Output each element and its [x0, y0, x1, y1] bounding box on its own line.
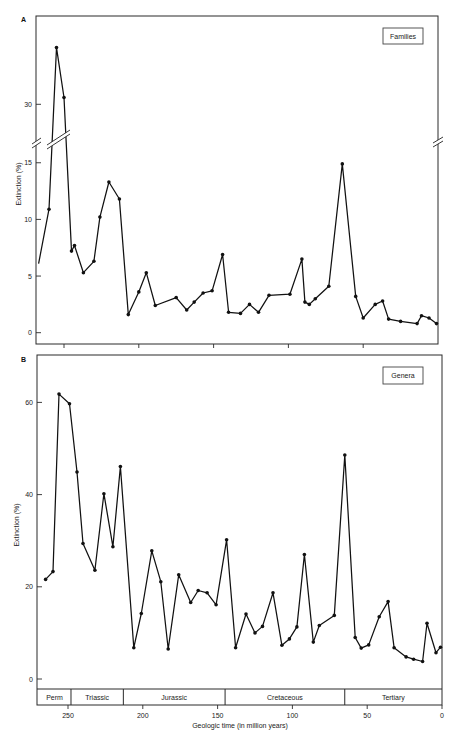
period-label-perm: Perm: [46, 694, 63, 701]
panel-b-data-point: [159, 580, 163, 584]
panel-b-data-point: [318, 624, 322, 628]
panel-a-data-point: [127, 313, 131, 317]
panel-b-data-point: [367, 643, 371, 647]
panel-a-data-point: [435, 322, 439, 326]
panel-b-data-point: [425, 621, 429, 625]
panel-b-data-point: [404, 655, 408, 659]
panel-b-data-point: [196, 589, 200, 593]
panel-a-legend-label: Families: [390, 33, 417, 40]
period-label-triassic: Triassic: [85, 694, 109, 701]
panel-a-data-point: [221, 253, 225, 257]
panel-a-data-point: [92, 260, 96, 264]
panel-a-data-point: [82, 271, 86, 275]
panel-b-y-tick-label: 20: [25, 583, 33, 590]
panel-b-y-tick-label: 40: [25, 491, 33, 498]
panel-b-x-tick-label: 150: [212, 712, 224, 719]
panel-a-y-tick-label: 0: [28, 329, 32, 336]
panel-b-y-tick-label: 60: [25, 399, 33, 406]
panel-b-data-point: [261, 625, 265, 629]
panel-a-data-point: [341, 162, 345, 166]
panel-a-data-point: [201, 291, 205, 295]
panel-a-data-point: [387, 317, 391, 321]
panel-b-data-point: [386, 600, 390, 604]
panel-b-data-point: [377, 615, 381, 619]
panel-a-data-point: [107, 180, 111, 184]
panel-b-data-point: [312, 640, 316, 644]
panel-b-data-point: [392, 646, 396, 650]
panel-a-data-point: [70, 249, 74, 253]
extinction-figure: A 05101530 Extinction (%) Families B: [0, 0, 458, 739]
panel-b-data-point: [303, 553, 307, 557]
panel-b-y-tick-label: 0: [29, 676, 33, 683]
panel-b-data-point: [102, 492, 106, 496]
panel-b-x-tick-label: 50: [363, 712, 371, 719]
panel-b-data-point: [225, 538, 229, 542]
panel-a-data-point: [327, 284, 331, 288]
x-axis-title: Geologic time (in million years): [192, 722, 288, 730]
panel-b-data-point: [44, 578, 48, 582]
panel-b-data-point: [343, 453, 347, 457]
panel-b-data-point: [57, 392, 61, 396]
panel-b-x-tick-label: 0: [440, 712, 444, 719]
panel-b-data-point: [81, 542, 85, 546]
panel-a-data-point: [415, 322, 419, 326]
panel-a-data-point: [381, 299, 385, 303]
panel-b-data-point: [280, 644, 284, 648]
panel-b-x-tick-label: 200: [137, 712, 149, 719]
panel-a-label: A: [21, 16, 26, 23]
panel-b-data-point: [132, 646, 136, 650]
panel-a-data-point: [288, 292, 292, 296]
panel-b-data-point: [177, 573, 181, 577]
panel-b-data-point: [412, 657, 416, 661]
panel-a-data-point: [185, 308, 189, 312]
panel-b-legend-label: Genera: [391, 372, 414, 379]
panel-a-data-point: [210, 289, 214, 293]
panel-a-y-tick-label: 10: [24, 216, 32, 223]
panel-a-data-point: [420, 314, 424, 318]
panel-b-data-point: [75, 470, 79, 474]
panel-a-data-point: [62, 96, 66, 100]
panel-b-data-point: [68, 402, 72, 406]
panel-b-data-point: [111, 545, 115, 549]
panel-b-data-point: [140, 612, 144, 616]
panel-b-data-point: [353, 636, 357, 640]
panel-a-data-point: [314, 297, 318, 301]
panel-b-data-point: [333, 614, 337, 618]
panel-b-data-point: [421, 660, 425, 664]
panel-a-data-point: [98, 215, 102, 219]
panel-b-data-point: [295, 625, 299, 629]
panel-a-data-point: [174, 296, 178, 300]
period-label-jurassic: Jurassic: [161, 694, 187, 701]
panel-b-data-point: [119, 465, 123, 469]
panel-b-data-point: [166, 647, 170, 651]
panel-b-data-point: [51, 570, 55, 574]
panel-b-data-point: [244, 612, 248, 616]
panel-b-data-point: [271, 591, 275, 595]
panel-b-data-point: [234, 646, 238, 650]
panel-a-data-point: [300, 257, 304, 261]
panel-b-x-tick-label: 100: [287, 712, 299, 719]
panel-a-data-point: [354, 295, 358, 299]
panel-b-label: B: [21, 356, 26, 363]
panel-a-data-point: [361, 316, 365, 320]
panel-a-data-point: [427, 316, 431, 320]
panel-b-data-point: [150, 549, 154, 553]
panel-a-data-point: [192, 300, 196, 304]
period-label-tertiary: Tertiary: [382, 694, 405, 702]
panel-b-data-point: [214, 603, 218, 607]
panel-a-data-point: [373, 303, 377, 307]
panel-b-data-point: [93, 568, 97, 572]
panel-a-data-point: [55, 46, 59, 50]
panel-a-data-point: [248, 303, 252, 307]
panel-a-data-point: [118, 197, 122, 201]
panel-a-data-point: [303, 300, 307, 304]
panel-a-data-point: [47, 207, 51, 211]
panel-a-data-point: [257, 311, 261, 315]
panel-a-y-axis-title: Extinction (%): [15, 162, 23, 205]
panel-a-legend-box: Families: [383, 28, 423, 44]
panel-b-data-point: [189, 601, 193, 605]
panel-a-data-point: [239, 312, 243, 316]
panel-a-data-point: [227, 311, 231, 315]
panel-b-data-point: [205, 591, 209, 595]
panel-b-data-point: [439, 645, 443, 649]
